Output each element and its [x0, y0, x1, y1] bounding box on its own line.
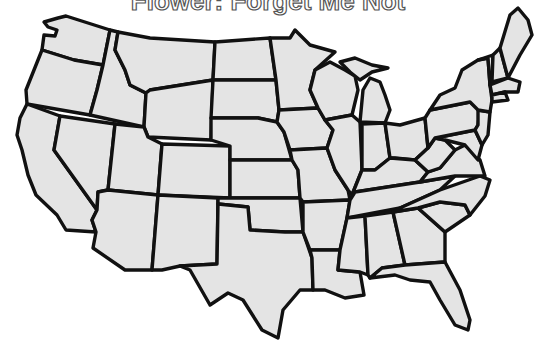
state-new-mexico	[152, 195, 218, 270]
state-colorado	[158, 144, 230, 198]
state-maine	[500, 8, 532, 78]
state-wyoming	[144, 80, 213, 140]
state-arizona	[92, 190, 158, 270]
state-connecticut-ri	[492, 92, 508, 102]
state-south-dakota	[211, 80, 279, 122]
state-kansas	[230, 160, 300, 198]
state-north-dakota	[213, 38, 276, 80]
us-map	[0, 0, 536, 341]
state-florida	[370, 262, 470, 330]
state-michigan	[360, 78, 390, 123]
state-new-york	[430, 58, 492, 112]
